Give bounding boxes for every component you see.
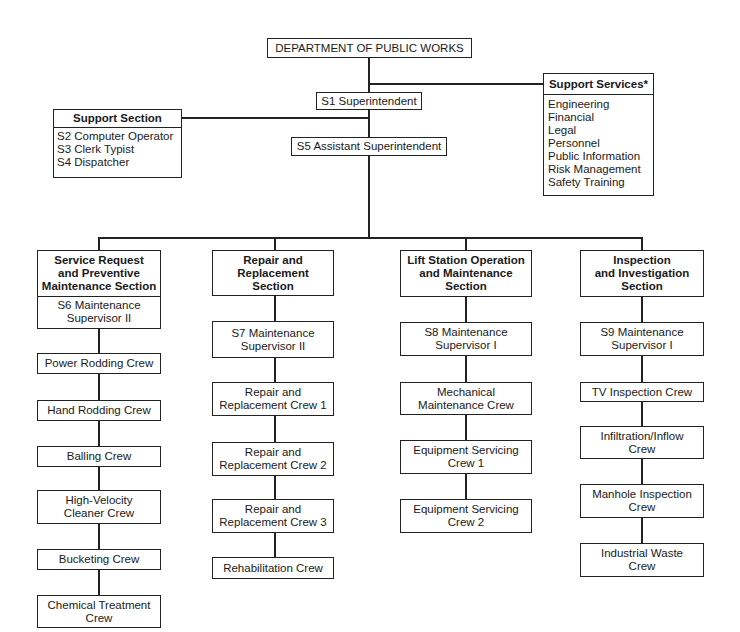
connector-to-support-section	[181, 117, 369, 119]
crew-label: Mechanical Maintenance Crew	[418, 386, 514, 412]
crew-label: Power Rodding Crew	[45, 357, 154, 370]
supervisor-box: S8 Maintenance Supervisor I	[400, 322, 532, 356]
support-services-box: Support Services* Engineering Financial …	[543, 73, 654, 196]
crew-label: Manhole Inspection Crew	[592, 488, 692, 514]
crew-box: Power Rodding Crew	[37, 353, 161, 374]
support-services-item: Engineering	[548, 98, 653, 111]
superintendent-label: S1 Superintendent	[321, 95, 416, 108]
crew-box: Infiltration/Inflow Crew	[580, 426, 704, 459]
department-title: DEPARTMENT OF PUBLIC WORKS	[275, 42, 464, 55]
section-title: Lift Station Operation and Maintenance S…	[407, 254, 525, 293]
superintendent-box: S1 Superintendent	[316, 92, 422, 110]
crew-box: Industrial Waste Crew	[580, 543, 704, 577]
section-title: Inspection and Investigation Section	[595, 254, 690, 293]
support-section-title: Support Section	[54, 110, 181, 128]
crew-label: Infiltration/Inflow Crew	[600, 430, 683, 456]
crew-label: Repair and Replacement Crew 3	[219, 503, 326, 529]
crew-label: Bucketing Crew	[59, 553, 140, 566]
support-section-item: S2 Computer Operator	[57, 130, 181, 143]
crew-box: Equipment Servicing Crew 1	[400, 440, 532, 474]
crew-box: Rehabilitation Crew	[212, 557, 334, 579]
supervisor-box: S9 Maintenance Supervisor I	[580, 322, 704, 356]
section-inspection: Inspection and Investigation Section	[580, 250, 704, 297]
crew-box: Mechanical Maintenance Crew	[400, 382, 532, 415]
supervisor-box: S7 Maintenance Supervisor II	[212, 321, 334, 358]
department-box: DEPARTMENT OF PUBLIC WORKS	[267, 38, 472, 58]
crew-label: Repair and Replacement Crew 2	[219, 446, 326, 472]
section-title: Service Request and Preventive Maintenan…	[38, 251, 160, 297]
support-services-item: Financial	[548, 111, 653, 124]
support-services-item: Legal	[548, 124, 653, 137]
supervisor-label: S7 Maintenance Supervisor II	[231, 327, 314, 353]
section-repair-replacement: Repair and Replacement Section	[212, 250, 334, 296]
crew-box: Hand Rodding Crew	[37, 400, 161, 421]
crew-box: Repair and Replacement Crew 3	[212, 499, 334, 533]
support-section-item: S4 Dispatcher	[57, 156, 181, 169]
section-lift-station: Lift Station Operation and Maintenance S…	[400, 250, 532, 297]
support-services-item: Safety Training	[548, 176, 653, 189]
connector-sections-bus	[98, 237, 643, 239]
crew-box: Bucketing Crew	[37, 549, 161, 570]
crew-box: Repair and Replacement Crew 2	[212, 442, 334, 476]
crew-label: Equipment Servicing Crew 1	[413, 444, 518, 470]
supervisor-label: S9 Maintenance Supervisor I	[600, 326, 683, 352]
crew-box: Repair and Replacement Crew 1	[212, 382, 334, 416]
crew-box: Manhole Inspection Crew	[580, 484, 704, 518]
section-title: Repair and Replacement Section	[237, 254, 309, 293]
support-services-item: Personnel	[548, 137, 653, 150]
crew-label: High-Velocity Cleaner Crew	[64, 494, 134, 520]
crew-label: Rehabilitation Crew	[223, 562, 323, 575]
support-services-item: Risk Management	[548, 163, 653, 176]
support-services-title: Support Services*	[544, 74, 653, 95]
crew-label: Hand Rodding Crew	[47, 404, 151, 417]
crew-label: Repair and Replacement Crew 1	[219, 386, 326, 412]
crew-box: TV Inspection Crew	[580, 382, 704, 402]
assistant-superintendent-label: S5 Assistant Superintendent	[297, 140, 442, 153]
assistant-superintendent-box: S5 Assistant Superintendent	[291, 137, 447, 156]
crew-box: Chemical Treatment Crew	[37, 595, 161, 628]
support-section-box: Support Section S2 Computer Operator S3 …	[53, 109, 182, 178]
crew-label: TV Inspection Crew	[592, 386, 692, 399]
crew-label: Balling Crew	[67, 450, 132, 463]
supervisor-label: S8 Maintenance Supervisor I	[424, 326, 507, 352]
supervisor-label: S6 Maintenance Supervisor II	[38, 297, 160, 327]
section-service-request: Service Request and Preventive Maintenan…	[37, 250, 161, 329]
crew-box: High-Velocity Cleaner Crew	[37, 490, 161, 524]
support-services-item: Public Information	[548, 150, 653, 163]
connector-to-support-services	[368, 83, 544, 85]
crew-label: Chemical Treatment Crew	[48, 599, 151, 625]
crew-box: Equipment Servicing Crew 2	[400, 499, 532, 533]
crew-box: Balling Crew	[37, 446, 161, 467]
crew-label: Equipment Servicing Crew 2	[413, 503, 518, 529]
support-section-item: S3 Clerk Typist	[57, 143, 181, 156]
crew-label: Industrial Waste Crew	[601, 547, 683, 573]
